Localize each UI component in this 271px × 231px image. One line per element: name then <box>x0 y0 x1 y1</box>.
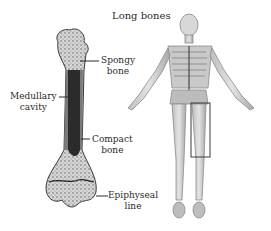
title-long-bones: Long bones <box>112 10 171 21</box>
label-spongy-bone: Spongybone <box>101 55 135 77</box>
femur-illustration <box>46 29 96 207</box>
label-epiphyseal-line: Epiphysealline <box>108 190 158 212</box>
label-medullary-cavity: Medullarycavity <box>10 91 57 113</box>
label-compact-bone: Compactbone <box>92 134 133 156</box>
